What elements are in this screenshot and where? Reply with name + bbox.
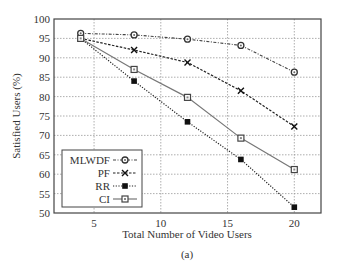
- x-tick-label: 20: [289, 217, 301, 229]
- legend-label-pf: PF: [98, 167, 110, 179]
- legend: MLWDFPFRRCI: [62, 150, 142, 207]
- y-axis-ticks: 50556065707580859095100: [34, 13, 51, 219]
- x-axis-label: Total Number of Video Users: [122, 228, 252, 240]
- legend-label-ci: CI: [99, 193, 110, 205]
- x-tick-label: 5: [91, 217, 97, 229]
- y-tick-label: 50: [39, 207, 51, 219]
- y-tick-label: 75: [39, 110, 51, 122]
- y-tick-label: 100: [34, 13, 51, 25]
- figure-caption: (a): [181, 248, 194, 261]
- series-mlwdf: [78, 30, 298, 75]
- series-pf: [78, 35, 298, 129]
- y-tick-label: 65: [39, 149, 51, 161]
- y-tick-label: 60: [39, 168, 51, 180]
- y-tick-label: 85: [39, 71, 51, 83]
- y-tick-label: 70: [39, 129, 51, 141]
- y-tick-label: 55: [39, 188, 51, 200]
- line-chart: 50556065707580859095100 5101520 MLWDFPFR…: [0, 0, 340, 272]
- y-tick-label: 95: [39, 32, 51, 44]
- y-axis-label: Satisfied Users (%): [10, 73, 23, 159]
- y-tick-label: 80: [39, 91, 51, 103]
- legend-label-mlwdf: MLWDF: [70, 154, 110, 166]
- legend-label-rr: RR: [95, 180, 110, 192]
- y-tick-label: 90: [39, 52, 51, 64]
